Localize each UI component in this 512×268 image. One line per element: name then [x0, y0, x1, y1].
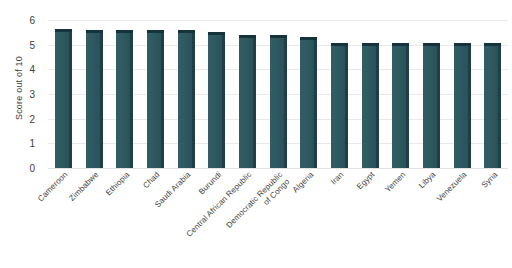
bar-top-face — [116, 30, 133, 33]
bar[interactable] — [392, 43, 409, 168]
gridline — [48, 168, 508, 169]
bar-side-face — [222, 34, 225, 168]
bar[interactable] — [300, 37, 317, 168]
plot-area — [48, 20, 508, 168]
bar[interactable] — [270, 35, 287, 168]
bar-top-face — [239, 35, 256, 38]
bar-face — [423, 43, 437, 168]
y-axis-tick-label: 6 — [29, 15, 35, 26]
bar-side-face — [437, 45, 440, 168]
bar-top-face — [362, 43, 379, 46]
bar-face — [362, 43, 376, 168]
bar[interactable] — [86, 30, 103, 168]
bar[interactable] — [208, 32, 225, 168]
y-axis-tick-label: 5 — [29, 39, 35, 50]
bar[interactable] — [484, 43, 501, 168]
bar-face — [208, 32, 222, 168]
bar[interactable] — [147, 30, 164, 168]
x-axis-tick-labels: CameroonZimbabweEthiopiaChadSaudi Arabia… — [48, 170, 508, 266]
bar[interactable] — [331, 43, 348, 168]
bar-side-face — [498, 45, 501, 168]
bar-side-face — [468, 45, 471, 168]
bar-side-face — [253, 37, 256, 168]
bar-face — [300, 37, 314, 168]
bar-side-face — [192, 32, 195, 168]
bar-side-face — [314, 39, 317, 168]
bar-side-face — [284, 37, 287, 168]
bar-face — [55, 29, 69, 168]
bar-top-face — [208, 32, 225, 35]
y-axis-tick-label: 0 — [29, 163, 35, 174]
y-axis-tick-labels: 6543210 — [0, 20, 44, 168]
bar-side-face — [100, 32, 103, 168]
bar-top-face — [484, 43, 501, 46]
bar[interactable] — [55, 29, 72, 168]
bar-face — [454, 43, 468, 168]
bar-top-face — [392, 43, 409, 46]
bar-top-face — [331, 43, 348, 46]
bar-top-face — [270, 35, 287, 38]
bar-top-face — [454, 43, 471, 46]
bar-top-face — [147, 30, 164, 33]
bar[interactable] — [178, 30, 195, 168]
bar-chart: Score out of 10 6543210 CameroonZimbabwe… — [0, 0, 512, 268]
bar-side-face — [406, 45, 409, 168]
y-axis-tick-label: 3 — [29, 89, 35, 100]
bar-face — [116, 30, 130, 168]
bar-top-face — [178, 30, 195, 33]
bar[interactable] — [362, 43, 379, 168]
bar-face — [239, 35, 253, 168]
bar-top-face — [55, 29, 72, 32]
bar-side-face — [69, 31, 72, 168]
bar[interactable] — [454, 43, 471, 168]
bar-series — [48, 20, 508, 168]
bar-face — [86, 30, 100, 168]
bar-top-face — [300, 37, 317, 40]
bar[interactable] — [239, 35, 256, 168]
bar[interactable] — [423, 43, 440, 168]
y-axis-tick-label: 2 — [29, 113, 35, 124]
bar-face — [178, 30, 192, 168]
bar-face — [331, 43, 345, 168]
y-axis-tick-label: 1 — [29, 138, 35, 149]
bar-face — [270, 35, 284, 168]
bar-side-face — [161, 32, 164, 168]
bar-side-face — [376, 45, 379, 168]
bar-face — [484, 43, 498, 168]
bar-face — [392, 43, 406, 168]
bar-face — [147, 30, 161, 168]
bar-top-face — [86, 30, 103, 33]
bar[interactable] — [116, 30, 133, 168]
bar-top-face — [423, 43, 440, 46]
y-axis-tick-label: 4 — [29, 64, 35, 75]
bar-side-face — [345, 45, 348, 168]
bar-side-face — [130, 32, 133, 168]
